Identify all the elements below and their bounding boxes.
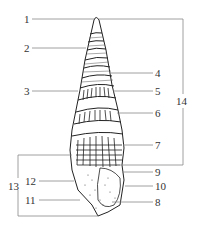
- label-2: 2: [24, 43, 30, 54]
- bracket-14: [99, 19, 183, 165]
- label-7: 7: [155, 140, 161, 151]
- label-3: 3: [24, 86, 30, 97]
- label-9: 9: [155, 167, 161, 178]
- label-6: 6: [155, 108, 161, 119]
- leader-lines: [32, 19, 153, 202]
- label-5: 5: [155, 86, 161, 97]
- shell-drawing: [70, 18, 124, 217]
- label-10: 10: [155, 181, 166, 192]
- label-13: 13: [8, 181, 19, 192]
- label-14: 14: [176, 96, 187, 107]
- label-4: 4: [155, 68, 161, 79]
- label-8: 8: [155, 197, 161, 208]
- label-1: 1: [24, 14, 30, 25]
- label-12: 12: [25, 176, 36, 187]
- label-11: 11: [25, 195, 36, 206]
